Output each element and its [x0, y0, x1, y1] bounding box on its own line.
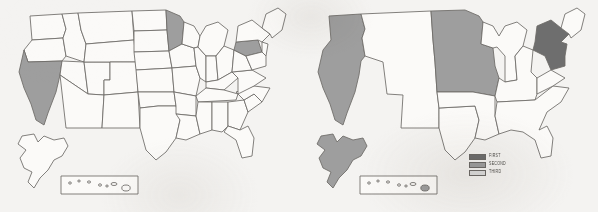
us-map-right — [299, 0, 598, 212]
state-montana[interactable] — [78, 11, 134, 44]
state-new-mexico[interactable] — [102, 92, 140, 128]
state-alaska[interactable] — [317, 134, 367, 188]
state-texas[interactable] — [140, 106, 180, 160]
state-georgia[interactable] — [228, 100, 248, 130]
state-tennessee[interactable] — [196, 88, 238, 102]
legend-item-second[interactable]: SECOND — [469, 161, 506, 168]
state-oregon[interactable] — [24, 38, 66, 62]
region-mountain-west[interactable] — [361, 11, 439, 128]
state-washington[interactable] — [30, 14, 66, 40]
state-alaska[interactable] — [18, 134, 68, 188]
state-arkansas[interactable] — [174, 92, 196, 116]
map-panel-right: FIRST SECOND THIRD — [299, 0, 598, 212]
region-northern-plains-midwest[interactable] — [431, 10, 499, 96]
legend-label-second: SECOND — [489, 162, 506, 166]
map-figure: FIRST SECOND THIRD — [0, 0, 598, 212]
map-legend: FIRST SECOND THIRD — [469, 153, 506, 176]
state-alabama[interactable] — [212, 102, 228, 132]
state-wisconsin[interactable] — [182, 22, 200, 48]
region-pacific-west[interactable] — [318, 14, 365, 125]
legend-item-third[interactable]: THIRD — [469, 169, 506, 176]
legend-label-third: THIRD — [489, 170, 501, 174]
legend-swatch-second — [469, 162, 486, 168]
state-nebraska[interactable] — [134, 51, 172, 70]
state-south-dakota[interactable] — [134, 30, 169, 52]
map-panel-left — [0, 0, 299, 212]
state-north-dakota[interactable] — [132, 10, 167, 31]
island-hawaii-big-island — [421, 185, 429, 191]
legend-swatch-first — [469, 154, 486, 160]
state-missouri[interactable] — [172, 66, 200, 96]
state-florida[interactable] — [224, 126, 254, 158]
state-kansas[interactable] — [136, 68, 174, 92]
region-south-central[interactable] — [439, 106, 479, 160]
legend-label-first: FIRST — [489, 154, 501, 158]
legend-swatch-third — [469, 170, 486, 176]
legend-item-first[interactable]: FIRST — [469, 153, 506, 160]
us-map-left — [0, 0, 299, 212]
state-california[interactable] — [19, 50, 62, 125]
state-wyoming[interactable] — [84, 40, 136, 62]
